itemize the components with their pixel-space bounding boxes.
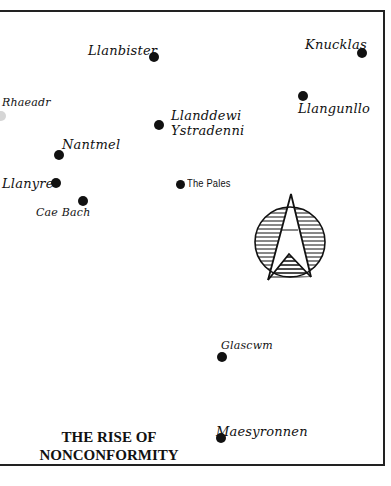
place-label-rhaeadr: Rhaeadr (2, 96, 51, 109)
place-label-llanyre: Llanyre (2, 176, 54, 191)
place-marker-maesyronnen (216, 433, 226, 443)
place-label-glascwm: Glascwm (221, 339, 273, 352)
place-marker-rhaeadr (0, 111, 6, 121)
map-title-line2: NONCONFORMITY (14, 446, 204, 464)
place-label-cae-bach: Cae Bach (36, 206, 90, 219)
place-marker-llanyre (51, 178, 61, 188)
place-marker-llanddewi-ystradenni (154, 120, 164, 130)
map-title: THE RISE OF NONCONFORMITY (14, 428, 204, 464)
north-arrow-icon (250, 190, 330, 294)
place-marker-the-pales (176, 180, 185, 189)
place-label-ystradenni: Ystradenni (171, 123, 244, 138)
place-marker-llanbister (149, 52, 159, 62)
place-label-maesyronnen: Maesyronnen (216, 424, 308, 439)
frame-bottom-border (0, 464, 385, 466)
place-marker-nantmel (54, 150, 64, 160)
place-label-the-pales: The Pales (187, 177, 231, 189)
place-marker-knucklas (357, 48, 367, 58)
place-label-nantmel: Nantmel (62, 137, 120, 152)
place-marker-llangunllo (298, 91, 308, 101)
place-label-llangunllo: Llangunllo (298, 101, 370, 116)
map-title-line1: THE RISE OF (14, 428, 204, 446)
place-label-llanddewi: Llanddewi (171, 108, 241, 123)
frame-right-border (383, 10, 385, 466)
place-marker-cae-bach (78, 196, 88, 206)
place-label-llanbister: Llanbister (88, 43, 157, 58)
frame-top-border (0, 10, 385, 12)
place-marker-glascwm (217, 352, 227, 362)
